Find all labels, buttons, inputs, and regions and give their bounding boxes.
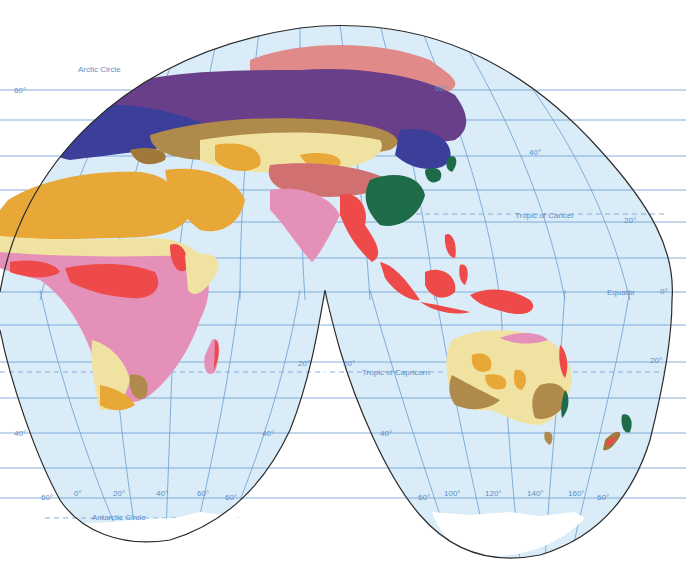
lat-40n-right: 40° — [529, 148, 541, 157]
equator-label: Equator — [607, 288, 635, 297]
tropic-of-capricorn-label: Tropic of Capricorn — [362, 368, 430, 377]
lat-60s-left: 60° — [41, 493, 53, 502]
lat-60s-right-lobe: 60° — [418, 493, 430, 502]
lat-40s-right-lobe: 40° — [380, 429, 392, 438]
lat-40s-left: 40° — [14, 429, 26, 438]
lat-20s-right-lobe: 20° — [343, 359, 355, 368]
lon-100: 100° — [444, 489, 461, 498]
tropic-of-cancer-label: Tropic of Cancer — [515, 211, 574, 220]
lon-20: 20° — [113, 489, 125, 498]
lon-140: 140° — [527, 489, 544, 498]
lat-60n-left: 60° — [14, 86, 26, 95]
arctic-circle-label: Arctic Circle — [78, 65, 121, 74]
lat-0-right: 0° — [660, 287, 668, 296]
lat-60n-right: 60° — [435, 84, 447, 93]
map-canvas: Arctic Circle Tropic of Cancer Equator T… — [0, 0, 686, 583]
lat-60s-left-lobe: 60° — [225, 493, 237, 502]
lat-20s-right: 20° — [650, 356, 662, 365]
lon-120: 120° — [485, 489, 502, 498]
lon-60: 60° — [197, 489, 209, 498]
lon-40: 40° — [156, 489, 168, 498]
lat-40s-left-lobe: 40° — [262, 429, 274, 438]
world-vegetation-map: Arctic Circle Tropic of Cancer Equator T… — [0, 0, 686, 583]
lat-20s-left-lobe: 20° — [298, 359, 310, 368]
lat-20n-right: 20° — [624, 216, 636, 225]
lat-60s-right: 60° — [597, 493, 609, 502]
antarctic-circle-label: Antarctic Circle — [92, 513, 146, 522]
lon-160: 160° — [568, 489, 585, 498]
lon-0: 0° — [74, 489, 82, 498]
